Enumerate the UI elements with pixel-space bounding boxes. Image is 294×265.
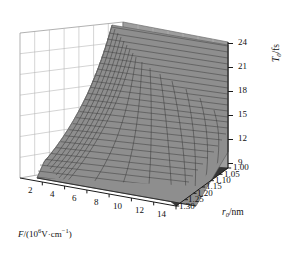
plot-canvas — [0, 0, 294, 265]
z-axis-ticks — [228, 44, 233, 164]
x-axis-title: F/(106V·cm−1) — [18, 228, 72, 239]
z-tick-label-1: 21 — [238, 62, 247, 71]
x-tick-label-2: 6 — [72, 194, 77, 203]
x-tick-label-5: 12 — [135, 206, 144, 215]
z-tick-label-5: 9 — [238, 158, 243, 167]
z-tick-label-2: 18 — [238, 86, 247, 95]
z-axis-symbol-subscript: 0 — [275, 53, 282, 56]
x-axis-unit-close: ) — [69, 229, 72, 239]
x-tick-label-0: 2 — [28, 186, 33, 195]
x-tick-label-3: 8 — [94, 198, 99, 207]
x-tick-label-4: 10 — [113, 202, 122, 211]
z-axis-unit: /fs — [271, 44, 281, 54]
x-axis-unit-exponent-2: −1 — [62, 227, 69, 234]
z-tick-label-0: 24 — [238, 38, 247, 47]
x-axis-unit-prefix: /(10 — [24, 229, 39, 239]
z-axis-symbol: T — [271, 57, 281, 62]
x-tick-label-1: 4 — [50, 190, 55, 199]
surface-plot-figure: 2 4 6 8 10 12 14 1.00 1.05 1.10 1.15 1.2… — [0, 0, 294, 265]
y-tick-label-6: 1.30 — [179, 202, 195, 211]
z-axis-title: T0/fs — [272, 44, 283, 62]
y-axis-unit: /nm — [229, 207, 244, 217]
y-axis-title: r0/nm — [222, 208, 244, 219]
z-tick-label-4: 12 — [238, 134, 247, 143]
z-tick-label-3: 15 — [238, 110, 247, 119]
x-tick-label-6: 14 — [157, 210, 166, 219]
x-axis-unit-suffix: V·cm — [41, 229, 62, 239]
